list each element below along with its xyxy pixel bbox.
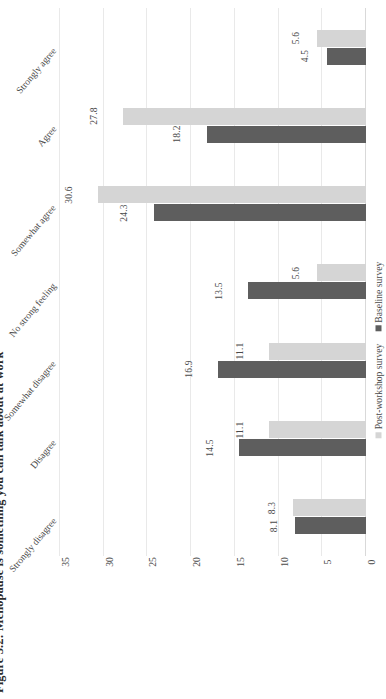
- bar-value-label: 14.5: [205, 439, 215, 456]
- bar-value-label: 30.6: [64, 186, 74, 203]
- axis-tick-10: 10: [279, 557, 290, 567]
- bar-value-label: 24.3: [119, 204, 129, 221]
- bar[interactable]: [317, 264, 366, 281]
- bar-value-label: 4.5: [300, 50, 310, 62]
- bar-group: 27.818.2: [60, 95, 366, 155]
- bar-slot: 8.1: [60, 517, 366, 534]
- category-label-text: Agree: [35, 123, 58, 148]
- bar-slot: 11.1: [60, 343, 366, 360]
- bar[interactable]: [269, 421, 366, 438]
- bar-value-label: 5.6: [290, 267, 300, 279]
- legend-swatch: [375, 325, 381, 331]
- axis-tick-35: 35: [60, 557, 71, 567]
- bar-chart: 5.64.527.818.230.624.35.613.511.116.911.…: [26, 0, 386, 699]
- bar-slot: 11.1: [60, 421, 366, 438]
- bar-slot: 16.9: [60, 361, 366, 378]
- bar-group: 11.114.5: [60, 409, 366, 469]
- bar-value-label: 27.8: [89, 108, 99, 125]
- bar-slot: 24.3: [60, 204, 366, 221]
- plot-area: 5.64.527.818.230.624.35.613.511.116.911.…: [60, 8, 366, 556]
- bar-slot: 18.2: [60, 126, 366, 143]
- bar-slot: 5.6: [60, 30, 366, 47]
- bar-group: 8.38.1: [60, 487, 366, 547]
- bar-slot: 5.6: [60, 264, 366, 281]
- bar-slot: 27.8: [60, 108, 366, 125]
- bar-groups: 5.64.527.818.230.624.35.613.511.116.911.…: [60, 8, 366, 556]
- legend-label: Baseline survey: [373, 261, 384, 322]
- bar[interactable]: [123, 108, 366, 125]
- legend: Post-workshop surveyBaseline survey: [370, 0, 386, 699]
- legend-item[interactable]: Post-workshop survey: [373, 343, 384, 438]
- figure-title: Figure 5.2: Menopause is something you c…: [0, 0, 26, 699]
- bar-group: 5.64.5: [60, 17, 366, 77]
- bar[interactable]: [295, 517, 366, 534]
- axis-tick-20: 20: [191, 557, 202, 567]
- legend-items: Post-workshop surveyBaseline survey: [373, 261, 384, 438]
- bar-value-label: 11.1: [235, 421, 245, 438]
- axis-tick-25: 25: [147, 557, 158, 567]
- bar[interactable]: [218, 361, 366, 378]
- bar[interactable]: [317, 30, 366, 47]
- bar-group: 5.613.5: [60, 252, 366, 312]
- legend-swatch: [375, 432, 381, 438]
- bar-value-label: 11.1: [235, 343, 245, 360]
- bar-slot: 14.5: [60, 439, 366, 456]
- axis-tick-5: 5: [322, 560, 333, 565]
- bar-value-label: 18.2: [173, 126, 183, 143]
- bar-value-label: 13.5: [214, 282, 224, 299]
- bar[interactable]: [327, 48, 366, 65]
- bar-slot: 30.6: [60, 186, 366, 203]
- bar-value-label: 8.3: [267, 502, 277, 514]
- axis-tick-15: 15: [235, 557, 246, 567]
- bar[interactable]: [207, 126, 366, 143]
- bar-value-label: 5.6: [290, 32, 300, 44]
- category-label-text: Disagree: [28, 437, 58, 470]
- bar[interactable]: [239, 439, 366, 456]
- bar-value-label: 16.9: [184, 361, 194, 378]
- bar-group: 30.624.3: [60, 174, 366, 234]
- legend-label: Post-workshop survey: [373, 343, 384, 429]
- bar[interactable]: [154, 204, 366, 221]
- value-axis: 05101520253035: [60, 562, 366, 584]
- bar-slot: 8.3: [60, 499, 366, 516]
- bar-slot: 13.5: [60, 282, 366, 299]
- bar[interactable]: [293, 499, 366, 516]
- bar[interactable]: [269, 343, 366, 360]
- bar-value-label: 8.1: [268, 520, 278, 532]
- bar-group: 11.116.9: [60, 330, 366, 390]
- axis-tick-30: 30: [104, 557, 115, 567]
- category-axis: Strongly agreeAgreeSomewhat agreeNo stro…: [26, 8, 60, 556]
- figure-title-text: Figure 5.2: Menopause is something you c…: [0, 352, 7, 693]
- bar[interactable]: [98, 186, 366, 203]
- legend-item[interactable]: Baseline survey: [373, 261, 384, 331]
- bar-slot: 4.5: [60, 48, 366, 65]
- bar[interactable]: [248, 282, 366, 299]
